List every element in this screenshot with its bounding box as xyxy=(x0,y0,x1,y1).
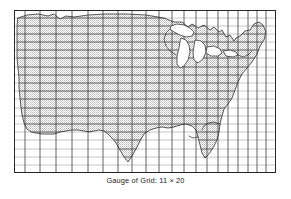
figure-caption: Gauge of Grid: 11 × 20 xyxy=(0,176,291,185)
usa-grid-map xyxy=(14,10,276,173)
caption-text: Gauge of Grid: 11 × 20 xyxy=(106,176,184,185)
figure-container: Gauge of Grid: 11 × 20 xyxy=(0,0,291,199)
map-frame xyxy=(14,10,276,173)
